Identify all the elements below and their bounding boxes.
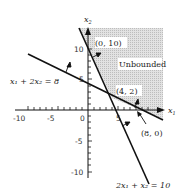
- y-tick-10: 10: [74, 45, 84, 54]
- y-axis-label: x2: [84, 15, 92, 25]
- constraint-label-1: x₁ + 2x₂ = 8: [10, 77, 59, 86]
- lp-diagram: -10 -5 0 5 x1 10 5 -5 -10 x2: [0, 0, 190, 193]
- x-tick-neg5: -5: [47, 114, 55, 123]
- y-tick-neg10: -10: [71, 168, 83, 177]
- x-axis-label: x1: [168, 106, 176, 116]
- x-tick-neg10: -10: [13, 114, 25, 123]
- point-label-4-2: (4, 2): [116, 87, 138, 96]
- point-label-8-0: (8, 0): [141, 129, 163, 138]
- region-label: Unbounded: [119, 60, 166, 69]
- constraint-label-2: 2x₁ + x₂ = 10: [115, 181, 170, 190]
- x-tick-0: 0: [80, 114, 85, 123]
- point-label-0-10: (0, 10): [95, 39, 122, 48]
- y-tick-neg5: -5: [75, 137, 83, 146]
